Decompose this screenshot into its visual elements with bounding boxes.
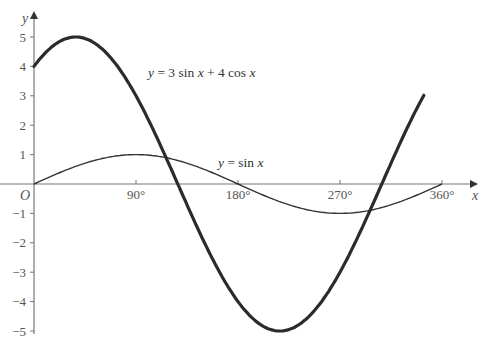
y-axis-label: y [20,11,29,26]
trig-graph: x y O 90°180°270°360° −5−4−3−2−112345 y … [0,0,494,350]
x-tick-label: 90° [127,187,145,202]
y-tick-label: 2 [20,118,27,133]
y-tick-label: −3 [12,265,26,280]
y-tick-label: −4 [12,294,26,309]
thin-curve-label: y = sin x [216,155,264,170]
x-tick-label: 180° [226,187,251,202]
y-tick-label: 4 [20,59,27,74]
y-tick-label: −5 [12,324,26,339]
y-tick-label: −1 [12,206,26,221]
origin-label: O [20,188,30,203]
x-tick-label: 360° [430,187,455,202]
x-axis-label: x [471,188,479,203]
y-tick-label: 3 [20,88,27,103]
y-axis-arrow-icon [30,11,38,19]
y-tick-label: −2 [12,235,26,250]
axes: x y O [0,11,479,334]
x-axis-arrow-icon [470,180,478,188]
y-tick-label: 1 [20,147,27,162]
y-tick-label: 5 [20,30,27,45]
thick-curve-label: y = 3 sin x + 4 cos x [146,65,255,80]
x-tick-label: 270° [328,187,353,202]
